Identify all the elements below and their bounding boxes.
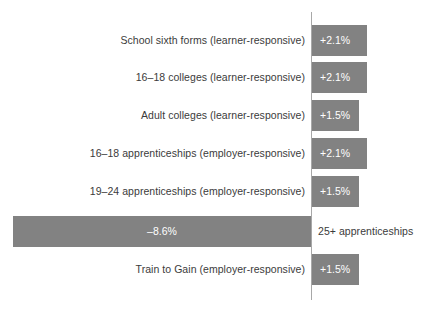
bar-value-label: +2.1%	[320, 138, 350, 169]
bar-segment[interactable]: +1.5%	[312, 100, 359, 131]
bar-value-label: –8.6%	[13, 216, 311, 247]
bar-category-label: 16–18 colleges (learner-responsive)	[0, 62, 305, 93]
bar-value-label: +1.5%	[320, 176, 350, 207]
bar-segment[interactable]: +1.5%	[312, 254, 359, 285]
bar-category-label: Train to Gain (employer-responsive)	[0, 254, 305, 285]
bar-value-label: +1.5%	[320, 100, 350, 131]
bar-segment[interactable]: +2.1%	[312, 62, 367, 93]
bar-category-label: 16–18 apprenticeships (employer-responsi…	[0, 138, 305, 169]
bar-segment[interactable]: –8.6%	[13, 216, 311, 247]
bar-row: 16–18 apprenticeships (employer-responsi…	[0, 138, 424, 169]
bar-chart: School sixth forms (learner-responsive) …	[0, 0, 424, 316]
bar-segment[interactable]: +2.1%	[312, 25, 367, 56]
bar-category-label: School sixth forms (learner-responsive)	[0, 25, 305, 56]
bar-category-label: 25+ apprenticeships	[318, 216, 413, 247]
bar-row: –8.6% 25+ apprenticeships	[0, 216, 424, 247]
bar-category-label: 19–24 apprenticeships (employer-responsi…	[0, 176, 305, 207]
bar-row: Adult colleges (learner-responsive) +1.5…	[0, 100, 424, 131]
bar-row: 16–18 colleges (learner-responsive) +2.1…	[0, 62, 424, 93]
bar-row: 19–24 apprenticeships (employer-responsi…	[0, 176, 424, 207]
bar-row: Train to Gain (employer-responsive) +1.5…	[0, 254, 424, 285]
bar-value-label: +2.1%	[320, 62, 350, 93]
bar-segment[interactable]: +1.5%	[312, 176, 359, 207]
bar-category-label: Adult colleges (learner-responsive)	[0, 100, 305, 131]
bar-row: School sixth forms (learner-responsive) …	[0, 25, 424, 56]
bar-value-label: +2.1%	[320, 25, 350, 56]
bar-value-label: +1.5%	[320, 254, 350, 285]
bar-segment[interactable]: +2.1%	[312, 138, 367, 169]
